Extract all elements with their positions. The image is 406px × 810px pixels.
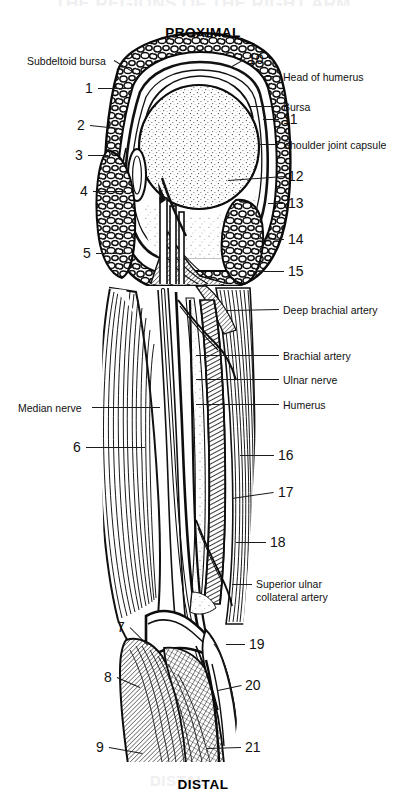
shoulder-cross-section	[96, 33, 290, 288]
leader-superior-ulnar-collateral-artery	[232, 584, 252, 585]
callout-number-9: 9	[96, 740, 104, 754]
callout-number-5: 5	[83, 246, 91, 260]
callout-number-10: 10	[248, 52, 264, 66]
callout-number-13: 13	[288, 196, 304, 210]
leader-number-13	[268, 203, 284, 204]
leader-median-nerve	[92, 407, 160, 408]
orientation-proximal: PROXIMAL	[0, 25, 406, 40]
label-ulnar-nerve: Ulnar nerve	[283, 374, 337, 386]
callout-number-17: 17	[278, 485, 294, 499]
illustration-page: THE REGIONS OF THE RIGHT ARM DISTAL	[0, 0, 406, 810]
leader-number-3	[88, 155, 108, 156]
leader-humerus	[196, 404, 279, 405]
label-deep-brachial-artery: Deep brachial artery	[283, 304, 378, 316]
leader-number-11	[263, 119, 279, 120]
label-subdeltoid-bursa: Subdeltoid bursa	[27, 55, 106, 67]
leader-ulnar-nerve	[196, 379, 279, 380]
label-superior-ulnar-collateral-artery-line1: Superior ulnar	[256, 578, 376, 591]
callout-number-7: 7	[117, 620, 125, 634]
callout-number-20: 20	[245, 678, 261, 692]
callout-number-21: 21	[245, 740, 261, 754]
callout-number-6: 6	[73, 440, 81, 454]
leader-bursa	[250, 106, 279, 107]
label-superior-ulnar-collateral-artery-line2: collateral artery	[256, 591, 376, 604]
label-humerus: Humerus	[283, 399, 326, 411]
callout-number-8: 8	[104, 670, 112, 684]
label-brachial-artery: Brachial artery	[283, 350, 351, 362]
callout-number-11: 11	[283, 112, 298, 126]
leader-number-1	[98, 88, 132, 89]
leader-number-16	[240, 455, 274, 456]
callout-number-15: 15	[288, 264, 304, 278]
label-shoulder-joint-capsule: Shoulder joint capsule	[283, 139, 386, 151]
callout-number-19: 19	[249, 637, 265, 651]
leader-number-6	[86, 447, 145, 448]
callout-number-12: 12	[288, 169, 304, 183]
leader-brachial-artery	[196, 355, 279, 356]
orientation-distal: DISTAL	[0, 777, 406, 792]
leader-number-4	[93, 191, 126, 192]
label-head-of-humerus: Head of humerus	[283, 71, 364, 83]
callout-number-16: 16	[278, 448, 294, 462]
leader-head-of-humerus	[262, 76, 279, 77]
callout-number-1: 1	[85, 81, 93, 95]
leader-number-19	[226, 644, 245, 645]
leader-shoulder-joint-capsule	[258, 144, 279, 145]
leader-number-18	[236, 542, 266, 543]
label-superior-ulnar-collateral-artery: Superior ulnarcollateral artery	[256, 578, 376, 603]
callout-number-18: 18	[270, 535, 286, 549]
leader-number-15	[250, 271, 284, 272]
callout-number-14: 14	[288, 232, 304, 246]
callout-number-4: 4	[80, 184, 88, 198]
leader-number-5	[96, 253, 130, 254]
callout-number-2: 2	[77, 118, 85, 132]
callout-number-3: 3	[75, 148, 83, 162]
label-median-nerve: Median nerve	[18, 402, 82, 414]
